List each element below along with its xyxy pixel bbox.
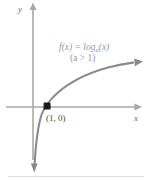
curve-start-arrow-icon <box>31 163 38 172</box>
function-label-suffix: (x) <box>99 42 110 53</box>
y-axis-arrow-icon <box>30 3 37 11</box>
y-axis <box>30 3 37 161</box>
point-marker <box>44 103 51 110</box>
x-axis-arrow-icon <box>135 104 143 111</box>
function-label-prefix: f(x) = log <box>59 42 96 53</box>
function-label-condition: (a > 1) <box>70 53 95 64</box>
y-axis-label: y <box>17 4 22 14</box>
logarithm-graph-figure: y x (1, 0) f(x) = loga(x) (a > 1) <box>0 0 152 180</box>
graph-canvas: y x (1, 0) f(x) = loga(x) (a > 1) <box>0 0 152 180</box>
point-label: (1, 0) <box>46 113 66 123</box>
curve-end-arrow-icon <box>134 59 143 67</box>
function-label: f(x) = loga(x) (a > 1) <box>59 42 109 64</box>
x-axis-label: x <box>133 113 138 123</box>
x-axis <box>6 104 142 111</box>
function-label-line1: f(x) = loga(x) <box>59 42 109 53</box>
